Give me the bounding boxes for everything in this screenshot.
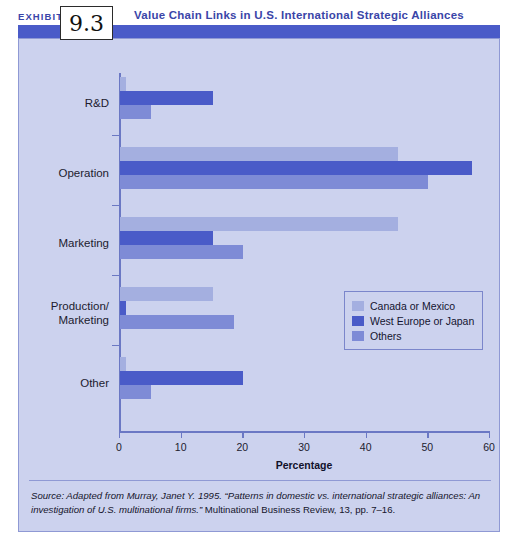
exhibit-figure: EXHIBIT Value Chain Links in U.S. Intern… bbox=[0, 0, 518, 546]
y-axis-tick bbox=[112, 135, 120, 136]
x-axis-tick-label: 40 bbox=[360, 441, 372, 453]
legend-swatch-icon bbox=[352, 301, 364, 311]
bar bbox=[120, 147, 398, 161]
x-axis-title: Percentage bbox=[119, 459, 489, 471]
exhibit-number: 9.3 bbox=[61, 7, 112, 39]
x-axis-tick bbox=[119, 431, 120, 438]
bar bbox=[120, 315, 234, 329]
bar bbox=[120, 175, 428, 189]
bar bbox=[120, 161, 472, 175]
legend-swatch-icon bbox=[352, 331, 364, 341]
category-label: Marketing bbox=[0, 237, 109, 251]
source-line-1: Source: Adapted from Murray, Janet Y. 19… bbox=[31, 490, 466, 501]
x-axis-tick-label: 50 bbox=[421, 441, 433, 453]
source-note: Source: Adapted from Murray, Janet Y. 19… bbox=[31, 489, 489, 516]
bar bbox=[120, 287, 213, 301]
bar bbox=[120, 77, 126, 91]
x-axis-tick bbox=[181, 431, 182, 438]
y-axis-tick bbox=[112, 205, 120, 206]
legend-item: Others bbox=[352, 328, 475, 343]
legend-swatch-icon bbox=[352, 316, 364, 326]
bar bbox=[120, 301, 126, 315]
exhibit-title: Value Chain Links in U.S. International … bbox=[134, 9, 464, 21]
x-axis-tick bbox=[366, 431, 367, 438]
bar bbox=[120, 105, 151, 119]
bar bbox=[120, 385, 151, 399]
x-axis-tick bbox=[489, 431, 490, 438]
plot-area: Percentage 0102030405060R&DOperationMark… bbox=[19, 39, 501, 533]
bar bbox=[120, 217, 398, 231]
y-axis-tick bbox=[112, 275, 120, 276]
source-line-2-rest: Multinational Business Review, 13, pp. 7… bbox=[202, 504, 395, 515]
bar bbox=[120, 371, 243, 385]
y-axis-tick bbox=[112, 345, 120, 346]
legend-item: Canada or Mexico bbox=[352, 298, 475, 313]
category-label: Production/Marketing bbox=[0, 300, 109, 327]
exhibit-label: EXHIBIT bbox=[18, 11, 63, 22]
x-axis-tick-label: 0 bbox=[116, 441, 122, 453]
x-axis-tick-label: 20 bbox=[236, 441, 248, 453]
legend-label: Others bbox=[370, 330, 402, 342]
legend-item: West Europe or Japan bbox=[352, 313, 475, 328]
source-divider bbox=[29, 480, 491, 481]
x-axis-tick bbox=[427, 431, 428, 438]
x-axis-tick-label: 30 bbox=[298, 441, 310, 453]
category-label: Other bbox=[0, 377, 109, 391]
x-axis-tick-label: 60 bbox=[483, 441, 495, 453]
bar bbox=[120, 91, 213, 105]
legend-label: West Europe or Japan bbox=[370, 315, 474, 327]
chart-panel: Percentage 0102030405060R&DOperationMark… bbox=[18, 38, 500, 532]
legend-label: Canada or Mexico bbox=[370, 300, 455, 312]
category-label: R&D bbox=[0, 97, 109, 111]
exhibit-number-box: 9.3 bbox=[60, 6, 113, 40]
chart-legend: Canada or Mexico West Europe or Japan Ot… bbox=[344, 291, 483, 350]
x-axis-tick bbox=[304, 431, 305, 438]
category-label: Operation bbox=[0, 167, 109, 181]
bar bbox=[120, 245, 243, 259]
x-axis-tick-label: 10 bbox=[175, 441, 187, 453]
bar bbox=[120, 231, 213, 245]
x-axis-tick bbox=[242, 431, 243, 438]
bar bbox=[120, 357, 126, 371]
